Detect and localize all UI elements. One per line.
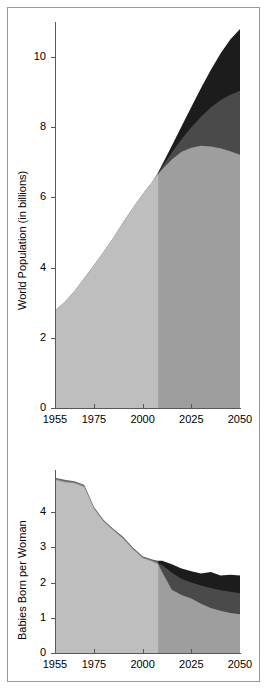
- x-tick-label: 2050: [216, 414, 264, 425]
- y-tick-mark: [51, 57, 55, 58]
- x-tick-label: 1975: [70, 414, 118, 425]
- world-population-chart: 024681019551975200020252050 World Popula…: [0, 10, 268, 430]
- y-tick-label: 0: [15, 402, 46, 413]
- y-tick-mark: [51, 197, 55, 198]
- x-tick-label: 2050: [216, 659, 264, 670]
- fertility-series-svg: [0, 440, 268, 680]
- y-tick-label: 10: [15, 51, 46, 62]
- x-tick-mark: [191, 649, 192, 653]
- x-tick-label: 2000: [119, 659, 167, 670]
- y-tick-mark: [51, 408, 55, 409]
- y-tick-mark: [51, 583, 55, 584]
- population-y-axis-title: World Population (in billions): [16, 171, 28, 310]
- fertility-x-axis: [55, 653, 241, 654]
- y-tick-mark: [51, 338, 55, 339]
- x-tick-label: 1975: [70, 659, 118, 670]
- fertility-y-axis: [55, 470, 56, 654]
- y-tick-mark: [51, 268, 55, 269]
- y-tick-mark: [51, 547, 55, 548]
- x-tick-mark: [191, 404, 192, 408]
- x-tick-label: 2025: [167, 659, 215, 670]
- fertility-y-axis-title: Babies Born per Woman: [16, 520, 28, 640]
- x-tick-label: 2025: [167, 414, 215, 425]
- x-tick-mark: [94, 404, 95, 408]
- historical-period-overlay: [55, 466, 158, 653]
- x-tick-mark: [143, 404, 144, 408]
- y-tick-label: 0: [15, 647, 46, 658]
- y-tick-mark: [51, 618, 55, 619]
- y-tick-label: 4: [15, 506, 46, 517]
- x-tick-mark: [94, 649, 95, 653]
- x-tick-label: 2000: [119, 414, 167, 425]
- y-tick-label: 2: [15, 332, 46, 343]
- y-tick-mark: [51, 512, 55, 513]
- y-tick-label: 8: [15, 121, 46, 132]
- population-y-axis: [55, 22, 56, 409]
- historical-period-overlay: [55, 18, 158, 408]
- population-x-axis: [55, 408, 241, 409]
- x-tick-mark: [143, 649, 144, 653]
- figure-root: 024681019551975200020252050 World Popula…: [0, 0, 268, 689]
- y-tick-mark: [51, 653, 55, 654]
- population-series-svg: [0, 10, 268, 430]
- y-tick-mark: [51, 127, 55, 128]
- fertility-rate-chart: 0123419551975200020252050 Babies Born pe…: [0, 440, 268, 680]
